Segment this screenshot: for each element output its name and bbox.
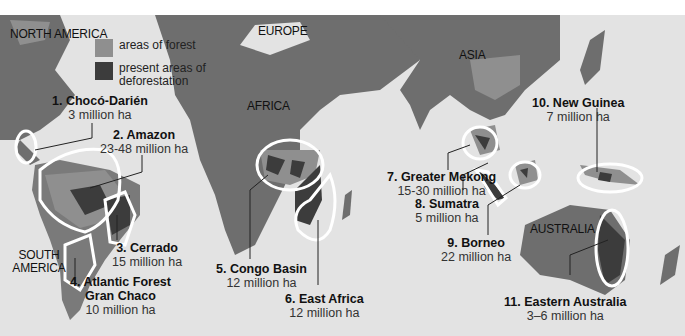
region-label-atlantic-forest: 4. Atlantic Forest Gran Chaco 10 million… [70,275,171,317]
clipped-caption-strip [0,0,685,15]
map-legend: areas of forest present areas of defores… [95,39,219,93]
legend-item-deforestation: present areas of deforestation [95,62,219,88]
region-label-east-africa: 6. East Africa 12 million ha [285,292,364,320]
region-label-sumatra: 8. Sumatra 5 million ha [415,197,479,225]
region-label-greater-mekong: 7. Greater Mekong 15-30 million ha [387,170,496,198]
region-label-choco-darien: 1. Chocó-Darién 3 million ha [52,94,148,122]
deforestation-map: NORTH AMERICA EUROPE AFRICA ASIA SOUTH A… [0,15,685,336]
continent-label-north-america: NORTH AMERICA [10,28,107,41]
continent-label-south-america: SOUTH AMERICA [12,249,66,275]
region-label-eastern-australia: 11. Eastern Australia 3–6 million ha [504,295,627,323]
legend-label: present areas of deforestation [119,62,219,88]
region-label-congo-basin: 5. Congo Basin 12 million ha [216,262,307,290]
forest-swatch [95,39,113,57]
region-label-new-guinea: 10. New Guinea 7 million ha [532,96,624,124]
continent-label-africa: AFRICA [247,100,290,113]
legend-label: areas of forest [119,39,196,52]
region-label-borneo: 9. Borneo 22 million ha [441,236,511,264]
region-label-cerrado: 3. Cerrado 15 million ha [112,241,182,269]
continent-label-australia: AUSTRALIA [530,223,595,236]
continent-label-europe: EUROPE [258,25,307,38]
region-label-amazon: 2. Amazon 23-48 million ha [100,128,188,156]
continent-label-asia: ASIA [459,49,486,62]
legend-item-forest: areas of forest [95,39,219,57]
deforestation-swatch [95,62,113,80]
